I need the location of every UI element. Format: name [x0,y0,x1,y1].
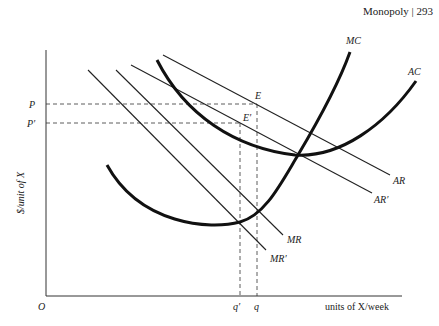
label-ac: AC [407,66,421,77]
label-mc: MC [345,35,361,46]
label-quantity-q: q [254,301,259,312]
label-origin: O [38,301,45,312]
ac-curve [157,60,416,155]
label-mr-prime: MR′ [269,253,287,264]
label-price-p-prime: P′ [26,118,36,129]
label-mr: MR [286,234,301,245]
label-ar: AR [392,175,405,186]
mc-curve [107,52,350,225]
monopoly-diagram: $/unit of X units of X/week O P P′ q′ q … [0,0,439,326]
label-ar-prime: AR′ [373,194,389,205]
label-x-axis: units of X/week [325,301,389,312]
ar-curve [163,55,390,175]
label-quantity-q-prime: q′ [233,301,241,312]
label-point-e-prime: E′ [242,112,252,123]
label-y-axis: $/unit of X [15,171,26,214]
label-point-e: E [254,90,261,101]
label-price-p: P [28,99,35,110]
